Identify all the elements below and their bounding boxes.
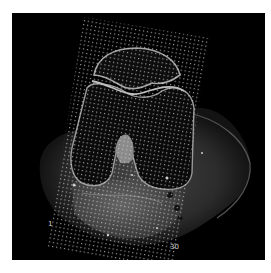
- last-slice-label: 30: [170, 244, 179, 251]
- first-slice-label: 1: [48, 221, 52, 228]
- mri-viewport[interactable]: 1 30: [12, 13, 265, 260]
